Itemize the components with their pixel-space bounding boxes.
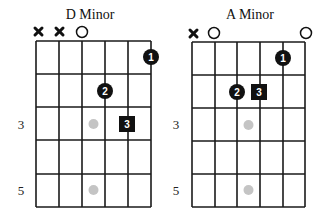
svg-text:1: 1 — [148, 52, 154, 63]
chord-title: D Minor — [66, 7, 115, 22]
svg-text:1: 1 — [280, 53, 286, 64]
finger-marker-3: 3 — [251, 84, 267, 100]
chord-diagram-a-minor: A Minor 3 5 1 2 — [173, 7, 312, 207]
mute-icon — [190, 30, 197, 37]
fret-number-label: 3 — [173, 117, 180, 132]
fret-inlay-dot — [89, 185, 99, 195]
open-string-icon — [209, 28, 220, 39]
open-string-icon — [77, 27, 88, 38]
chord-diagram-d-minor: D Minor 3 5 — [18, 7, 159, 207]
finger-marker-1: 1 — [275, 50, 291, 66]
chord-title: A Minor — [226, 7, 274, 22]
mute-icon — [56, 28, 63, 35]
finger-marker-1: 1 — [143, 49, 159, 65]
finger-marker-3: 3 — [119, 116, 135, 132]
fret-number-label: 3 — [18, 117, 25, 132]
chord-diagrams: D Minor 3 5 — [0, 0, 324, 217]
svg-text:2: 2 — [234, 87, 240, 98]
fret-inlay-dot — [244, 120, 254, 130]
fret-number-label: 5 — [173, 183, 180, 198]
finger-marker-2: 2 — [229, 84, 245, 100]
fret-number-label: 5 — [18, 183, 25, 198]
fret-inlay-dot — [244, 185, 254, 195]
open-string-icon — [301, 28, 312, 39]
fret-inlay-dot — [89, 119, 99, 129]
svg-text:2: 2 — [102, 86, 108, 97]
finger-marker-2: 2 — [97, 83, 113, 99]
svg-text:3: 3 — [124, 119, 130, 130]
svg-text:3: 3 — [256, 87, 262, 98]
mute-icon — [35, 28, 42, 35]
